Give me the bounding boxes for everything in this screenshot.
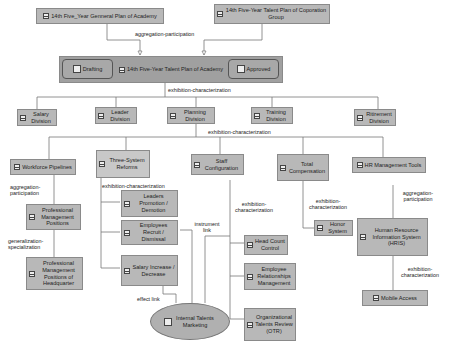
object-icon (99, 161, 105, 167)
object-icon (217, 11, 223, 17)
node-employees-recruit[interactable]: Employees Recruit / Dismissal (121, 220, 178, 245)
state-icon (237, 65, 245, 73)
node-hris[interactable]: Human Resource Information System (HRIS) (357, 218, 428, 256)
node-staff-configuration[interactable]: Staff Configuration (191, 154, 244, 175)
node-honor-system[interactable]: Honor System (314, 220, 353, 236)
object-icon (14, 164, 20, 170)
object-icon (373, 295, 379, 301)
link-label-exhibition: exhibition-characterization (396, 266, 444, 279)
object-icon (20, 115, 26, 121)
link-label-instrument: instrument link (190, 221, 224, 234)
node-retirement-division[interactable]: Ritirement Division (354, 109, 396, 126)
object-icon (357, 115, 363, 121)
object-icon (124, 268, 130, 274)
node-mobile-access[interactable]: Mobile Access (362, 290, 428, 306)
link-label-generalization: generalization-specialization (8, 238, 50, 251)
node-otr[interactable]: Organizational Talents Review (OTR) (244, 308, 296, 341)
node-professional-management-hq[interactable]: Professional Management Positions of Hea… (26, 257, 83, 290)
node-leader-division[interactable]: Leader Division (95, 107, 137, 124)
object-icon (194, 162, 200, 168)
object-icon (170, 113, 176, 119)
link-label-exhibition: exhibition-characterization (168, 87, 231, 93)
node-general-plan[interactable]: 14th Five_Year Genneral Plan of Academy (36, 8, 164, 24)
link-label-exhibition: exhibition-characterization (102, 183, 165, 189)
object-icon (357, 162, 363, 168)
node-leaders-promotion[interactable]: Leaders Promotion / Demotion (121, 190, 178, 217)
object-icon (98, 113, 104, 119)
node-corp-plan[interactable]: 14th Five-Year Talent Plan of Coporation… (214, 4, 330, 24)
node-planning-division[interactable]: Planning Division (167, 107, 215, 124)
node-three-system-reforms[interactable]: Three-System Reforms (96, 150, 150, 178)
node-workforce-pipelines[interactable]: Workforce Pipelines (10, 159, 76, 175)
node-professional-management-positions[interactable]: Professional Management Positions (26, 204, 81, 230)
link-label-aggregation: aggregation-participation (10, 184, 50, 197)
object-icon (119, 67, 125, 73)
object-icon (124, 230, 130, 236)
link-label-exhibition: exhibition-characterization (208, 129, 271, 135)
object-icon (124, 201, 130, 207)
object-icon (164, 318, 172, 326)
node-hr-management-tools[interactable]: HR Management Tools (352, 157, 426, 173)
link-label-effect: effect link (137, 296, 160, 302)
object-icon (360, 234, 366, 240)
object-icon (29, 271, 35, 277)
node-salary-increase[interactable]: Salary Increase / Decrease (121, 255, 178, 286)
state-icon (73, 65, 81, 73)
object-icon (280, 165, 286, 171)
node-head-count-control[interactable]: Head Count Control (244, 235, 288, 255)
state-approved[interactable]: Approved (228, 59, 279, 79)
node-training-division[interactable]: Training Division (251, 107, 293, 124)
node-internal-talents-marketing[interactable]: Internal Talents Marketing (150, 303, 230, 340)
state-drafting[interactable]: Drafting (62, 59, 113, 79)
link-label-exhibition: exhibition-characterization (232, 201, 276, 214)
link-label-exhibition: exhibition-characterization (306, 198, 350, 211)
node-salary-division[interactable]: Salary Division (17, 109, 57, 126)
object-icon (29, 214, 35, 220)
node-employee-relationships[interactable]: Employee Relationships Management (244, 263, 296, 290)
object-icon (317, 225, 323, 231)
object-icon (247, 274, 253, 280)
node-total-compensation[interactable]: Total Compensation (277, 154, 329, 181)
object-icon (247, 322, 253, 328)
object-icon (43, 13, 49, 19)
object-icon (254, 113, 260, 119)
link-label-aggregation: aggregation-participation (135, 31, 194, 37)
link-label-aggregation: aggregation-participation (396, 190, 440, 203)
object-icon (247, 242, 253, 248)
